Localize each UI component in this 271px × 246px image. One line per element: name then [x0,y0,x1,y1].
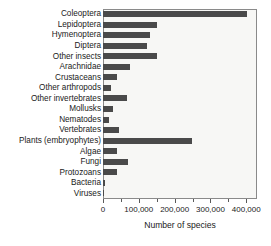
category-label: Lepidoptera [0,20,101,29]
bar-row [103,62,257,73]
bar-row [103,136,257,147]
x-tick-label: 400,000 [232,205,261,215]
bar [103,95,127,101]
x-tick-major [210,199,211,203]
category-label: Nematodes [0,115,101,124]
category-label: Vertebrates [0,125,101,134]
category-label: Coleoptera [0,9,101,18]
category-label: Protozoans [0,168,101,177]
bar-row [103,188,257,199]
x-tick-minor [121,199,122,202]
bar [103,180,105,186]
bar-row [103,146,257,157]
x-tick-minor [193,199,194,202]
bar [103,64,130,70]
bar-row [103,51,257,62]
bar-row [103,20,257,31]
bar-row [103,157,257,168]
category-label: Crustaceans [0,73,101,82]
x-tick-major [246,199,247,203]
bar-row [103,41,257,52]
category-label: Other invertebrates [0,94,101,103]
bar-row [103,125,257,136]
category-label: Arachnidae [0,62,101,71]
bar [103,148,117,154]
category-label: Fungi [0,157,101,166]
bar [103,127,119,133]
bar-row [103,104,257,115]
category-label: Mollusks [0,104,101,113]
bar-row [103,72,257,83]
bar [103,43,147,49]
category-axis-labels: ColeopteraLepidopteraHymenopteraDipteraO… [0,9,101,199]
category-label: Other arthropods [0,83,101,92]
category-label: Other insects [0,52,101,61]
bar [103,159,128,165]
bar-row [103,178,257,189]
bar [103,32,150,38]
bar [103,85,111,91]
x-tick-major [103,199,104,203]
x-axis-tick-labels: 0100,000200,000300,000400,000 [0,205,271,217]
bar-row [103,115,257,126]
bar-row [103,93,257,104]
bar [103,74,117,80]
bars-layer [103,9,257,199]
x-tick-minor [228,199,229,202]
category-label: Viruses [0,189,101,198]
category-label: Bacteria [0,178,101,187]
x-tick-label: 0 [101,205,105,215]
bar-row [103,167,257,178]
bar [103,190,104,196]
category-label: Algae [0,147,101,156]
chart-figure: ColeopteraLepidopteraHymenopteraDipteraO… [0,0,271,246]
x-tick-label: 300,000 [196,205,225,215]
bar [103,106,113,112]
x-tick-label: 200,000 [160,205,189,215]
bar [103,138,192,144]
x-tick-major [139,199,140,203]
category-label: Plants (embryophytes) [0,136,101,145]
bar [103,22,157,28]
bar [103,53,157,59]
bar [103,117,109,123]
bar-row [103,83,257,94]
category-label: Diptera [0,41,101,50]
bar [103,169,117,175]
category-label: Hymenoptera [0,30,101,39]
bar-row [103,30,257,41]
x-tick-major [175,199,176,203]
x-tick-label: 100,000 [124,205,153,215]
bar [103,11,247,17]
bar-row [103,9,257,20]
x-axis-title: Number of species [103,220,257,230]
x-tick-minor [157,199,158,202]
